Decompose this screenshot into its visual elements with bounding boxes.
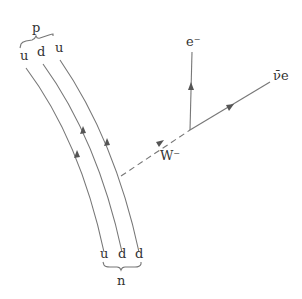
neutron-quark-3: d	[135, 246, 143, 261]
proton-label: p	[32, 20, 40, 35]
antineutrino-label: ν̄e	[273, 68, 289, 83]
arrow-icon	[188, 82, 194, 90]
arrow-icon	[74, 150, 80, 158]
w-boson-label: W⁻	[160, 148, 180, 163]
proton-quark-2: d	[37, 44, 45, 59]
neutron-quark-2: d	[118, 246, 126, 261]
neutron-label: n	[117, 273, 126, 288]
proton-quark-1: u	[20, 48, 28, 63]
arrow-icon	[156, 140, 164, 147]
electron-line	[190, 52, 192, 130]
quark-line-u	[26, 68, 104, 252]
electron-label: e⁻	[186, 34, 201, 49]
neutron-quark-1: u	[100, 246, 108, 261]
proton-quark-3: u	[55, 40, 63, 55]
neutron-brace	[103, 262, 141, 270]
quark-line-d	[43, 64, 122, 252]
feynman-diagram: p u d u W⁻ e⁻ ν̄e u d d n	[0, 0, 302, 299]
quark-line-d-to-u	[60, 60, 139, 252]
